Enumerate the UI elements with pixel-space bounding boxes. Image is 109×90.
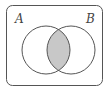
set-a-label: A <box>14 12 24 26</box>
set-b-label: B <box>85 12 95 26</box>
venn-diagram: A B <box>0 0 109 90</box>
